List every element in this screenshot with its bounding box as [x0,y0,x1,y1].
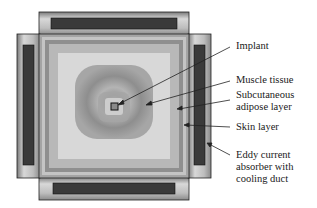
label-eddy-line3: cooling duct [236,173,288,185]
muscle-tissue [75,65,153,139]
label-implant: Implant [236,40,269,52]
eddy-current-absorber-bottom [39,177,189,200]
label-eddy-line1: Eddy current [236,149,291,161]
implant [111,103,118,110]
label-muscle-tissue: Muscle tissue [236,74,293,86]
label-subcutaneous-line1: Subcutaneous [236,89,294,101]
eddy-current-absorber-left [17,34,40,178]
eddy-current-absorber-right [188,34,211,178]
diagram-figure: Implant Muscle tissue Subcutaneous adipo… [0,0,317,208]
eddy-current-absorber-top [39,12,189,35]
label-eddy-line2: absorber with [236,161,293,173]
label-subcutaneous-line2: adipose layer [236,101,292,113]
label-skin-layer: Skin layer [236,121,279,133]
